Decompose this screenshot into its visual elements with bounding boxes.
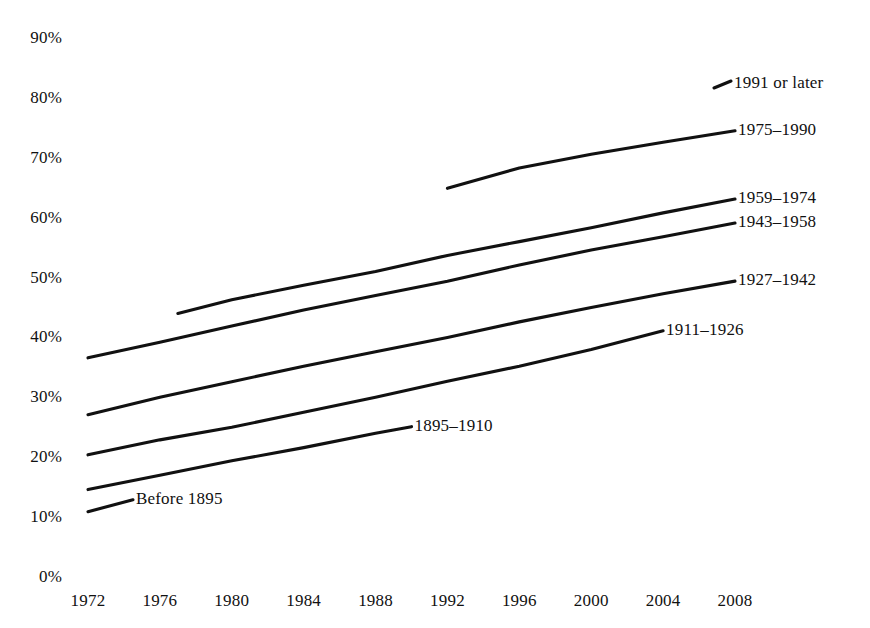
x-axis-tick-1992: 1992	[417, 591, 477, 611]
x-axis-tick-1976: 1976	[130, 591, 190, 611]
y-axis-tick-30: 30%	[0, 387, 62, 407]
series-line-1927-1942	[88, 281, 735, 415]
x-axis-tick-2000: 2000	[561, 591, 621, 611]
series-line-Before 1895	[88, 500, 133, 512]
x-axis-tick-2008: 2008	[705, 591, 765, 611]
y-axis-tick-20: 20%	[0, 447, 62, 467]
x-axis-tick-1980: 1980	[202, 591, 262, 611]
series-label-1991 or later: 1991 or later	[734, 73, 823, 93]
y-axis-tick-40: 40%	[0, 327, 62, 347]
y-axis-tick-90: 90%	[0, 28, 62, 48]
x-axis-tick-1984: 1984	[274, 591, 334, 611]
series-leader-1991 or later	[714, 81, 731, 88]
series-line-1895-1910	[88, 427, 412, 490]
x-axis-tick-1988: 1988	[346, 591, 406, 611]
y-axis-tick-0: 0%	[0, 567, 62, 587]
y-axis-tick-80: 80%	[0, 88, 62, 108]
x-axis-tick-2004: 2004	[633, 591, 693, 611]
y-axis-tick-50: 50%	[0, 268, 62, 288]
series-label-1975-1990: 1975–1990	[738, 120, 816, 140]
series-line-1975-1990	[447, 131, 735, 188]
series-label-1911-1926: 1911–1926	[666, 320, 744, 340]
x-axis-tick-1996: 1996	[489, 591, 549, 611]
series-label-1959-1974: 1959–1974	[738, 188, 816, 208]
series-label-1895-1910: 1895–1910	[415, 416, 493, 436]
series-label-Before 1895: Before 1895	[136, 489, 223, 509]
series-label-1927-1942: 1927–1942	[738, 270, 816, 290]
series-label-1943-1958: 1943–1958	[738, 212, 816, 232]
y-axis-tick-60: 60%	[0, 208, 62, 228]
y-axis-tick-70: 70%	[0, 148, 62, 168]
chart-plot-area	[0, 0, 870, 628]
y-axis-tick-10: 10%	[0, 507, 62, 527]
x-axis-tick-1972: 1972	[58, 591, 118, 611]
chart-container: 90%80%70%60%50%40%30%20%10%0% 1972197619…	[0, 0, 870, 628]
